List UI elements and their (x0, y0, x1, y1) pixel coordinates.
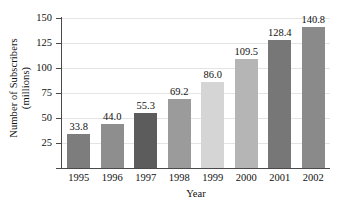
gridline (62, 18, 330, 19)
y-tick-label: 25 (26, 137, 52, 148)
bar-value-label: 128.4 (259, 27, 301, 38)
y-tick-label: 75 (26, 87, 52, 98)
bar-value-label: 69.2 (158, 86, 200, 97)
x-axis-title: Year (62, 188, 330, 200)
bar-value-label: 140.8 (292, 14, 334, 25)
bar (134, 113, 157, 168)
y-tick-label: 100 (26, 62, 52, 73)
y-axis-title-line-1: Number of Subscribers (8, 38, 19, 138)
bar-value-label: 109.5 (225, 46, 267, 57)
x-tick-label: 2002 (293, 172, 333, 183)
bar (67, 134, 90, 168)
plot-area: 33.844.055.369.286.0109.5128.4140.8 (62, 18, 330, 168)
bar (168, 99, 191, 168)
x-axis-line (56, 168, 330, 169)
bar (201, 82, 224, 168)
y-tick-label: 125 (26, 37, 52, 48)
bar (268, 40, 291, 168)
bar (302, 27, 325, 168)
y-tick-label: 50 (26, 112, 52, 123)
bar-value-label: 86.0 (192, 69, 234, 80)
bar-value-label: 44.0 (91, 111, 133, 122)
y-tick-label: 150 (26, 12, 52, 23)
bar (235, 59, 258, 169)
bar (101, 124, 124, 168)
bar-value-label: 55.3 (125, 100, 167, 111)
bar-value-label: 33.8 (58, 121, 100, 132)
bar-chart-figure: Number of Subscribers (millions) 2550751… (0, 0, 337, 218)
